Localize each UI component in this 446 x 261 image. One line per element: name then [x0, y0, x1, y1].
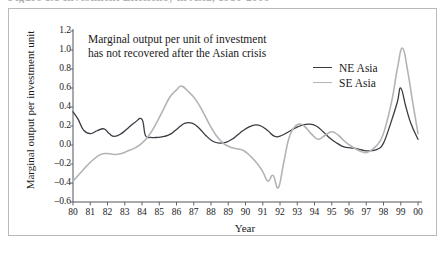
chart-legend: NE AsiaSE Asia — [313, 60, 378, 90]
legend-label: NE Asia — [339, 62, 378, 74]
figure-container: Figure 1.1 Investment Efficiency in Asia… — [0, 0, 446, 261]
legend-swatch-icon — [313, 82, 332, 83]
chart-annotation: Marginal output per unit of investment h… — [88, 33, 266, 60]
annotation-line-1: Marginal output per unit of investment — [88, 33, 266, 47]
annotation-line-2: has not recovered after the Asian crisis — [88, 47, 266, 61]
legend-item: SE Asia — [313, 75, 378, 90]
legend-item: NE Asia — [313, 60, 378, 75]
series-line-ne-asia — [73, 88, 418, 151]
legend-label: SE Asia — [339, 77, 376, 89]
legend-swatch-icon — [313, 67, 332, 68]
